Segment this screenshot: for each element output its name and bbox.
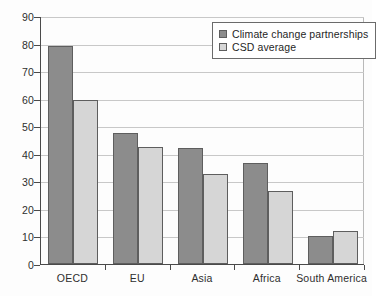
y-axis-tick-label: 20 [8,204,34,216]
y-axis-tick-label: 50 [8,121,34,133]
bar [308,236,333,264]
y-axis-tick-mark [34,155,40,156]
x-axis-tick-mark [170,265,171,270]
y-axis-tick-label: 60 [8,94,34,106]
bar-group [113,17,163,264]
bar [138,147,163,264]
chart-legend: Climate change partnerships CSD average [212,22,376,59]
y-axis-tick-mark [34,210,40,211]
x-axis-tick-label: South America [296,272,367,284]
y-axis-tick-label: 30 [8,176,34,188]
legend-label: CSD average [232,41,296,53]
bar [203,174,228,264]
legend-item-csd-average: CSD average [219,40,368,53]
bar [113,133,138,264]
bar [268,191,293,264]
x-axis-tick-label: Asia [191,272,212,284]
x-axis-tick-mark [234,265,235,270]
y-axis-tick-mark [34,72,40,73]
legend-swatch-icon [219,43,227,51]
y-axis-tick-mark [34,237,40,238]
y-axis-tick-label: 80 [8,39,34,51]
legend-item-climate-change-partnerships: Climate change partnerships [219,27,368,40]
x-axis-tick-mark [364,265,365,270]
y-axis-tick-mark [34,127,40,128]
bar [333,231,358,264]
y-axis-tick-mark [34,100,40,101]
x-axis-tick-label: Africa [253,272,281,284]
x-axis-tick-label: EU [130,272,145,284]
y-axis-tick-mark [34,45,40,46]
bar [178,148,203,264]
y-axis-tick-label: 0 [8,259,34,271]
legend-label: Climate change partnerships [232,28,368,40]
y-axis-tick-mark [34,182,40,183]
x-axis-tick-mark [299,265,300,270]
y-axis-tick-label: 40 [8,149,34,161]
y-axis-tick-label: 90 [8,11,34,23]
x-axis-tick-label: OECD [57,272,88,284]
y-axis-tick-mark [34,17,40,18]
x-axis-tick-mark [105,265,106,270]
y-axis-tick-label: 10 [8,231,34,243]
bar-group [48,17,98,264]
y-axis-tick-label: 70 [8,66,34,78]
bar [48,46,73,264]
bar [243,163,268,264]
bar [73,100,98,264]
legend-swatch-icon [219,30,227,38]
y-axis-tick-mark [34,265,40,266]
